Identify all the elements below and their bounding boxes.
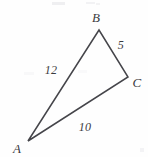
vertex-label-a: A: [13, 142, 21, 155]
geometry-figure: B C A 12 5 10: [0, 0, 148, 157]
triangle-drawing: [0, 0, 148, 157]
vertex-label-c: C: [133, 76, 142, 89]
side-length-ab: 12: [45, 64, 58, 76]
vertex-label-b: B: [92, 11, 100, 24]
side-length-ac: 10: [79, 121, 92, 133]
side-length-bc: 5: [118, 39, 124, 51]
